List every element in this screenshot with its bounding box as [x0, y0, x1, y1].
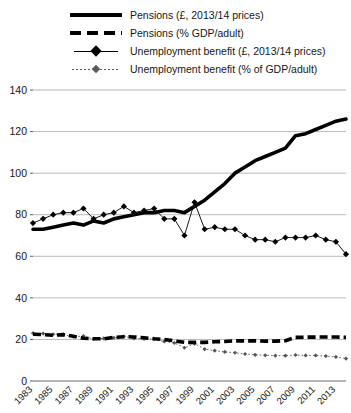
- y-tick-label: 40: [15, 292, 27, 304]
- x-tick-label: 2003: [214, 384, 237, 407]
- data-point-marker-unemployment-pct: [304, 353, 308, 357]
- legend-key-thin-diamond-icon: [68, 44, 124, 58]
- data-point-marker-unemployment-pct: [203, 347, 207, 351]
- data-point-marker-unemployment-pct: [243, 352, 247, 356]
- data-point-marker-unemployment-gbp: [252, 237, 258, 243]
- data-point-marker-unemployment-gbp: [50, 212, 56, 218]
- data-point-marker-unemployment-gbp: [212, 224, 218, 230]
- data-point-marker-unemployment-gbp: [40, 216, 46, 222]
- y-tick-label: 20: [15, 333, 27, 345]
- data-point-marker-unemployment-pct: [41, 332, 45, 336]
- data-point-marker-unemployment-gbp: [171, 216, 177, 222]
- x-tick-label: 1999: [173, 384, 196, 407]
- legend-key-solid-thick-icon: [68, 8, 124, 22]
- x-tick-label: 1989: [72, 384, 95, 407]
- data-point-marker-unemployment-gbp: [202, 226, 208, 232]
- data-point-marker-unemployment-gbp: [282, 234, 288, 240]
- data-point-marker-unemployment-gbp: [30, 220, 36, 226]
- x-tick-label: 1997: [153, 384, 176, 407]
- data-point-marker-unemployment-pct: [324, 354, 328, 358]
- x-tick-label: 1995: [133, 384, 156, 407]
- x-tick-label: 1983: [12, 384, 35, 407]
- data-point-marker-unemployment-pct: [233, 351, 237, 355]
- chart-x-axis-labels: 1983198519871989199119931995199719992001…: [12, 384, 338, 407]
- y-tick-label: 120: [9, 125, 27, 137]
- legend-key-dotted-diamond-icon: [68, 62, 124, 76]
- data-point-marker-unemployment-pct: [334, 355, 338, 359]
- chart-plot-area: 020406080100120140 198319851987198919911…: [0, 82, 351, 413]
- x-tick-label: 2005: [234, 384, 257, 407]
- data-point-marker-unemployment-gbp: [313, 232, 319, 238]
- x-tick-label: 1991: [92, 384, 115, 407]
- legend-key-dashed-thick-icon: [68, 26, 124, 40]
- data-point-marker-unemployment-pct: [253, 353, 257, 357]
- data-point-marker-unemployment-pct: [283, 354, 287, 358]
- data-point-marker-unemployment-gbp: [121, 203, 127, 209]
- data-point-marker-unemployment-pct: [213, 349, 217, 353]
- x-tick-label: 1993: [113, 384, 136, 407]
- series-line-pensions-pct: [33, 334, 346, 342]
- data-point-marker-unemployment-pct: [314, 353, 318, 357]
- x-tick-label: 1987: [52, 384, 75, 407]
- data-point-marker-unemployment-pct: [293, 353, 297, 357]
- data-point-marker-unemployment-gbp: [272, 239, 278, 245]
- x-tick-label: 2011: [295, 384, 317, 406]
- data-point-marker-unemployment-gbp: [181, 232, 187, 238]
- x-tick-label: 1985: [32, 384, 55, 407]
- chart-y-axis-labels: 020406080100120140: [9, 84, 27, 387]
- x-tick-label: 2013: [315, 384, 338, 407]
- data-point-marker-unemployment-pct: [344, 356, 348, 360]
- data-point-marker-unemployment-gbp: [101, 212, 107, 218]
- series-line-pensions-gbp: [33, 119, 346, 229]
- data-point-marker-unemployment-gbp: [303, 234, 309, 240]
- legend-label-pensions-pct: Pensions (% GDP/adult): [130, 27, 244, 39]
- chart-legend: Pensions (£, 2013/14 prices) Pensions (%…: [0, 4, 351, 82]
- data-point-marker-unemployment-pct: [223, 350, 227, 354]
- data-point-marker-unemployment-gbp: [242, 232, 248, 238]
- legend-item-pensions-pct: Pensions (% GDP/adult): [68, 24, 244, 42]
- x-tick-label: 2009: [274, 384, 297, 407]
- data-point-marker-unemployment-gbp: [222, 226, 228, 232]
- y-tick-label: 140: [9, 84, 27, 96]
- data-point-marker-unemployment-pct: [263, 353, 267, 357]
- y-tick-label: 60: [15, 250, 27, 262]
- legend-label-pensions-gbp: Pensions (£, 2013/14 prices): [130, 9, 264, 21]
- legend-item-unemployment-pct: Unemployment benefit (% of GDP/adult): [68, 60, 317, 78]
- legend-label-unemployment-gbp: Unemployment benefit (£, 2013/14 prices): [130, 45, 326, 57]
- legend-item-unemployment-gbp: Unemployment benefit (£, 2013/14 prices): [68, 42, 326, 60]
- chart-figure: Pensions (£, 2013/14 prices) Pensions (%…: [0, 0, 351, 413]
- data-point-marker-unemployment-gbp: [292, 234, 298, 240]
- data-point-marker-unemployment-pct: [273, 354, 277, 358]
- y-tick-label: 80: [15, 208, 27, 220]
- y-tick-label: 100: [9, 167, 27, 179]
- chart-svg: 020406080100120140 198319851987198919911…: [0, 82, 351, 413]
- data-point-marker-unemployment-pct: [172, 341, 176, 345]
- legend-item-pensions-gbp: Pensions (£, 2013/14 prices): [68, 6, 264, 24]
- data-point-marker-unemployment-gbp: [262, 237, 268, 243]
- data-point-marker-unemployment-gbp: [323, 237, 329, 243]
- chart-series-layer: [30, 119, 349, 361]
- data-point-marker-unemployment-pct: [182, 346, 186, 350]
- x-tick-label: 2001: [193, 384, 216, 407]
- data-point-marker-unemployment-gbp: [232, 226, 238, 232]
- x-tick-label: 2007: [254, 384, 277, 407]
- legend-label-unemployment-pct: Unemployment benefit (% of GDP/adult): [130, 63, 317, 75]
